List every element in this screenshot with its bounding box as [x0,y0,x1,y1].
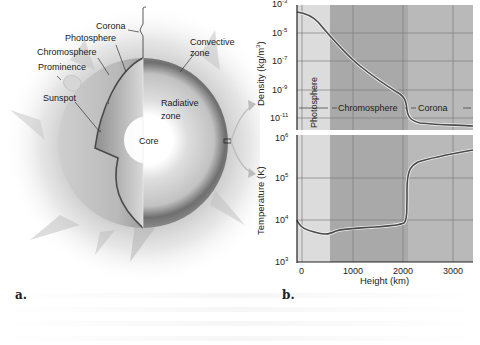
bleed-through-line [0,321,480,326]
label-chromosphere: Chromosphere [37,47,97,57]
svg-text:10-11: 10-11 [270,112,289,123]
svg-text:10-9: 10-9 [272,84,288,95]
region-label-chromosphere: Chromosphere [338,103,398,113]
svg-text:10-7: 10-7 [272,55,288,66]
label-prominence: Prominence [38,62,86,72]
label-radiative-zone: Radiative [161,98,199,108]
corona-band-temp [408,135,473,262]
chromosphere-band-temp [330,135,408,262]
svg-text:105: 105 [275,172,289,183]
label-convective-zone-2: zone [190,48,210,58]
density-plot: Chromosphere Corona Photosphere [297,5,473,130]
label-core: Core [139,136,159,146]
density-tick-labels: 10-3 10-5 10-7 10-9 10-11 [270,0,289,123]
bleed-through-line [0,307,480,312]
svg-text:106: 106 [275,132,289,143]
svg-text:3000: 3000 [443,266,463,276]
label-radiative-zone-2: zone [161,111,181,121]
label-corona: Corona [96,21,126,31]
temperature-tick-labels: 106 105 104 103 [275,132,289,267]
bleed-through-line [0,336,480,341]
height-axis-title: Height (km) [360,275,409,286]
svg-text:103: 103 [275,256,289,267]
density-axis-title: Density (kg/m3) [255,41,266,106]
label-sunspot: Sunspot [43,93,77,103]
sunspot-dot [99,130,101,132]
label-convective-zone: Convective [190,37,235,47]
svg-text:104: 104 [275,214,289,225]
sunspot-dot [107,102,109,104]
svg-text:0: 0 [299,266,304,276]
svg-text:10-5: 10-5 [272,27,288,38]
temperature-axis-title: Temperature (K) [255,166,266,235]
svg-text:10-3: 10-3 [272,0,288,9]
region-label-photosphere: Photosphere [309,77,319,128]
label-photosphere: Photosphere [65,33,116,43]
bleed-through-line [0,293,480,298]
temperature-plot [297,135,473,263]
region-label-corona: Corona [418,103,448,113]
